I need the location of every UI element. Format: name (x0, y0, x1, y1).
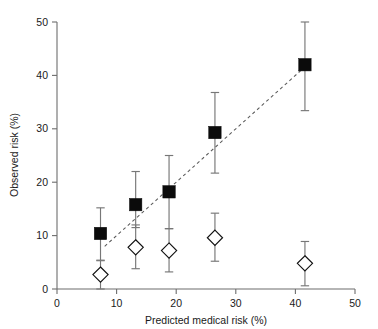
data-point (161, 229, 176, 272)
data-point (94, 208, 106, 260)
x-axis-ticks: 0 10 20 30 40 50 (54, 289, 361, 309)
y-tick-label-30: 30 (36, 122, 48, 134)
filled-square-series (94, 22, 311, 260)
x-tick-label-40: 40 (290, 297, 302, 309)
chart-figure: 0 10 20 30 40 50 0 10 20 30 40 50 Predic… (0, 0, 378, 329)
data-point (129, 172, 141, 228)
data-point (207, 213, 222, 261)
filled-square-marker (163, 186, 175, 198)
y-axis-title: Observed risk (%) (8, 113, 20, 197)
data-point (299, 22, 311, 111)
data-point (209, 92, 221, 173)
x-tick-label-0: 0 (54, 297, 60, 309)
data-point (128, 225, 143, 269)
data-point (93, 261, 108, 289)
open-diamond-series (93, 213, 313, 289)
data-point (163, 156, 175, 229)
y-tick-label-50: 50 (36, 16, 48, 28)
reference-line (105, 65, 308, 247)
open-diamond-marker (297, 256, 312, 271)
calibration-scatter-plot: 0 10 20 30 40 50 0 10 20 30 40 50 Predic… (0, 0, 378, 329)
filled-square-marker (129, 198, 141, 210)
y-tick-label-10: 10 (36, 229, 48, 241)
open-diamond-marker (207, 230, 222, 245)
y-axis-ticks: 0 10 20 30 40 50 (36, 16, 57, 295)
open-diamond-marker (93, 267, 108, 282)
reference-line-group (105, 65, 308, 247)
y-tick-label-0: 0 (42, 283, 48, 295)
x-axis-title: Predicted medical risk (%) (145, 314, 267, 326)
x-tick-label-50: 50 (349, 297, 361, 309)
filled-square-marker (94, 227, 106, 239)
filled-square-marker (299, 59, 311, 71)
x-tick-label-30: 30 (230, 297, 242, 309)
open-diamond-marker (161, 243, 176, 258)
filled-square-marker (209, 126, 221, 138)
open-diamond-marker (128, 240, 143, 255)
x-tick-label-10: 10 (111, 297, 123, 309)
y-tick-label-40: 40 (36, 69, 48, 81)
x-tick-label-20: 20 (170, 297, 182, 309)
data-point (297, 241, 312, 285)
y-tick-label-20: 20 (36, 176, 48, 188)
